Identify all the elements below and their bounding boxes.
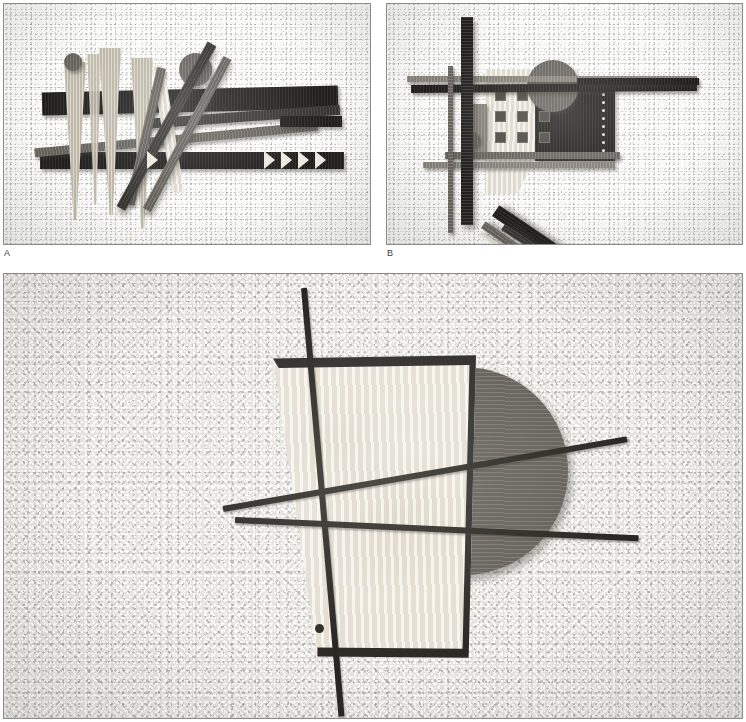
grid-square-3: [495, 111, 506, 122]
grid-square-4: [517, 111, 528, 122]
sawtooth-2: [281, 151, 292, 169]
single-arrow: [147, 151, 158, 169]
grid-square-6: [495, 132, 506, 143]
grid-square-8: [539, 132, 550, 143]
grid-square-5: [539, 111, 550, 122]
trapezoid-hole: [315, 624, 324, 633]
figure-panel-b: [386, 3, 743, 245]
figure-panel-a: [3, 3, 371, 245]
vertical-dark-bar-thin: [448, 66, 453, 233]
sawtooth-1: [264, 151, 275, 169]
grid-square-7: [517, 132, 528, 143]
figure-panel-c: [3, 273, 743, 719]
sawtooth-4: [315, 151, 326, 169]
figure-label-a: A: [4, 248, 10, 258]
vertical-dark-bar-thick: [461, 17, 473, 225]
figure-label-b: B: [387, 248, 393, 258]
sawtooth-3: [298, 151, 309, 169]
square-grid: [495, 90, 557, 146]
short-bar-right: [280, 116, 342, 127]
perforation-strip: [601, 91, 606, 157]
horizontal-bar-upper-dark2: [577, 78, 699, 85]
small-disc-top-left: [64, 53, 82, 71]
figure-plate: A: [0, 0, 746, 722]
